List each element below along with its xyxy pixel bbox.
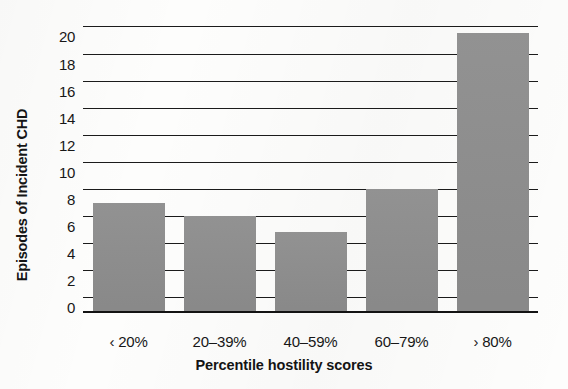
x-tick-label: › 80%	[447, 333, 538, 350]
y-tick-label: 14	[59, 111, 75, 126]
y-tick-label: 16	[59, 84, 75, 99]
bar	[457, 33, 529, 311]
x-tick-label: ‹ 20%	[83, 333, 174, 350]
plot-area: ‹ 20%20–39%40–59%60–79%› 80%	[83, 18, 538, 311]
x-tick-label: 20–39%	[174, 333, 265, 350]
y-tick-label: 10	[59, 165, 75, 180]
y-tick-label: 8	[67, 192, 75, 207]
x-tick-label: 40–59%	[265, 333, 356, 350]
y-tick-label: 4	[67, 246, 75, 261]
y-tick-label: 2	[67, 273, 75, 288]
bar	[366, 189, 438, 311]
y-tick-label: 0	[67, 300, 75, 315]
y-tick-label: 18	[59, 57, 75, 72]
y-axis-tick-labels: 02468101214161820	[0, 18, 83, 318]
x-axis-title: Percentile hostility scores	[0, 357, 568, 373]
bar	[184, 216, 256, 311]
bar-chart-figure: Episodes of Incident CHD 024681012141618…	[0, 0, 568, 389]
y-tick-label: 12	[59, 138, 75, 153]
gridline	[83, 26, 538, 27]
y-tick-label: 20	[59, 29, 75, 44]
bar	[275, 232, 347, 311]
axis-baseline	[83, 311, 538, 313]
y-tick-label: 6	[67, 219, 75, 234]
x-tick-label: 60–79%	[356, 333, 447, 350]
bar	[93, 203, 165, 311]
